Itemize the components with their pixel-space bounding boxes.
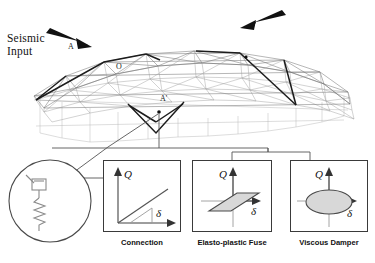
connection-delta-symbol: δ <box>156 207 162 219</box>
damper-delta-symbol: δ <box>347 207 353 219</box>
magnified-detail-circle <box>4 157 100 249</box>
fuse-q-symbol: Q <box>219 168 227 180</box>
caption-viscous-damper: Viscous Damper <box>288 238 370 247</box>
detail-circle-outline <box>9 160 91 242</box>
figure-root: Seismic Input A O A' <box>0 0 375 263</box>
panel-elasto-plastic-fuse: Q δ <box>192 160 272 232</box>
damper-q-symbol: Q <box>315 168 323 180</box>
fuse-delta-symbol: δ <box>251 205 257 217</box>
connection-q-symbol: Q <box>124 168 132 180</box>
caption-connection: Connection <box>103 238 181 247</box>
panel-viscous-damper: Q δ <box>290 160 368 232</box>
panel-connection: Q δ <box>103 160 181 232</box>
connection-axis-symbols: Q δ <box>104 161 182 233</box>
fuse-axis-symbols: Q δ <box>193 161 273 233</box>
caption-elasto-plastic-fuse: Elasto-plastic Fuse <box>184 238 280 247</box>
damper-axis-symbols: Q δ <box>291 161 369 233</box>
